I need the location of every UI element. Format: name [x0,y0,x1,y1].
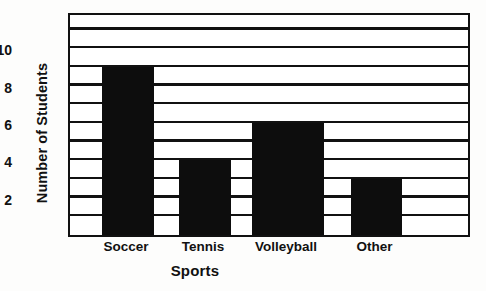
plot-inner [70,15,468,235]
y-tick-label-2: 2 [0,192,12,208]
x-tick-label-volleyball: Volleyball [255,239,317,254]
gridline [70,46,468,49]
gridline [70,27,468,30]
bar-chart: Number of Students 246810 SoccerTennisVo… [0,0,486,291]
y-tick-label-8: 8 [0,80,12,96]
bar-tennis[interactable] [179,160,231,235]
x-tick-label-tennis: Tennis [182,239,225,254]
y-tick-label-10: 10 [0,42,12,58]
x-tick-label-other: Other [356,239,392,254]
plot-area [68,13,470,237]
chart-title-cropped [0,0,486,9]
x-axis-title: Sports [0,262,390,279]
y-tick-label-4: 4 [0,154,12,170]
y-tick-label-6: 6 [0,117,12,133]
bar-soccer[interactable] [102,67,154,235]
bar-other[interactable] [351,179,402,235]
x-tick-label-soccer: Soccer [103,239,148,254]
y-axis-title: Number of Students [34,28,50,238]
bar-volleyball[interactable] [252,123,324,235]
